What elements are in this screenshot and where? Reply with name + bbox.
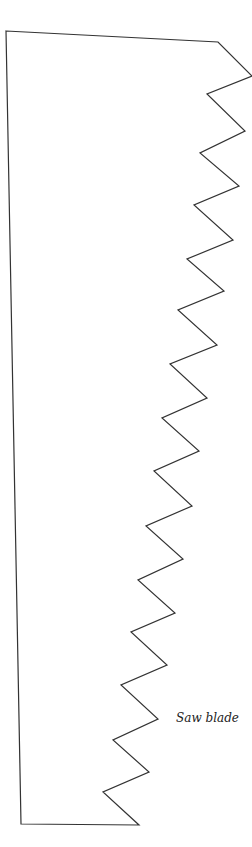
saw-blade-shape — [6, 31, 252, 825]
saw-blade-label: Saw blade — [176, 711, 239, 725]
